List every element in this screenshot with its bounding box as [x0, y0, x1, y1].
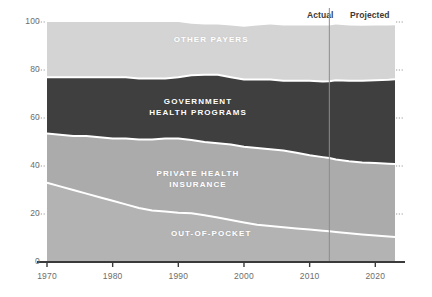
y-tick-label: 80	[14, 64, 40, 74]
y-tick-label: 60	[14, 112, 40, 122]
y-axis: 020406080100	[12, 0, 40, 297]
band-label: PRIVATE HEALTH INSURANCE	[128, 169, 268, 190]
x-tick-label: 2000	[224, 271, 264, 281]
x-tick-label: 1970	[27, 271, 67, 281]
x-tick-label: 2010	[290, 271, 330, 281]
y-tick-label: 20	[14, 208, 40, 218]
stacked-area-chart: Actual Projected 020406080100 1970198019…	[0, 0, 432, 297]
area-band	[47, 22, 395, 82]
y-tick-label: 0	[14, 256, 40, 266]
band-label: OUT-OF-POCKET	[141, 229, 281, 240]
band-label: GOVERNMENT HEALTH PROGRAMS	[128, 97, 268, 118]
y-tick-label: 100	[14, 16, 40, 26]
x-tick-label: 1980	[93, 271, 133, 281]
band-label: OTHER PAYERS	[141, 35, 281, 46]
x-tick-label: 1990	[158, 271, 198, 281]
x-tick-label: 2020	[355, 271, 395, 281]
y-tick-label: 40	[14, 160, 40, 170]
